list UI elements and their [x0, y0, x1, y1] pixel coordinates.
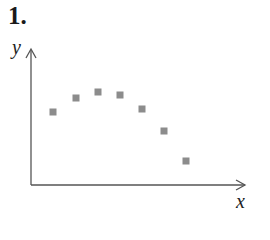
data-point [161, 128, 168, 135]
scatter-plot [0, 0, 270, 240]
data-point [183, 158, 190, 165]
data-point [50, 109, 57, 116]
data-point [139, 106, 146, 113]
axes [26, 49, 245, 190]
data-point [73, 95, 80, 102]
data-point [95, 89, 102, 96]
data-points [50, 89, 190, 165]
data-point [117, 92, 124, 99]
